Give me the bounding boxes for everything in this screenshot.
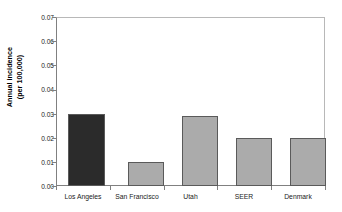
bar-los-angeles — [68, 114, 105, 186]
bars-layer — [56, 17, 325, 186]
x-tick-mark-4 — [271, 186, 272, 190]
x-tick-label-denmark: Denmark — [271, 192, 325, 201]
bar-utah — [182, 116, 218, 186]
x-tick-label-seer: SEER — [217, 192, 271, 201]
x-tick-mark-2 — [164, 186, 165, 190]
y-tick-label-0.05: 0.05 — [20, 62, 54, 69]
bar-denmark — [290, 138, 326, 186]
y-tick-label-0.03: 0.03 — [20, 111, 54, 118]
y-tick-label-0.06: 0.06 — [20, 38, 54, 45]
x-tick-mark-1 — [110, 186, 111, 190]
bar-chart-figure: Annual incidence (per 100,000) 0.07 0.06… — [0, 0, 342, 212]
x-tick-mark-5 — [325, 186, 326, 190]
x-tick-label-los-angeles: Los Angeles — [56, 192, 110, 201]
y-tick-label-0.01: 0.01 — [20, 159, 54, 166]
y-axis-title-line-1: Annual incidence — [5, 29, 15, 125]
y-tick-label-0.07: 0.07 — [20, 14, 54, 21]
y-tick-label-0.02: 0.02 — [20, 135, 54, 142]
x-tick-mark-3 — [217, 186, 218, 190]
x-tick-label-san-francisco: San Francisco — [110, 192, 164, 201]
y-tick-label-0.00: 0.00 — [20, 183, 54, 190]
bar-san-francisco — [128, 162, 164, 186]
bar-seer — [236, 138, 272, 186]
y-tick-label-0.04: 0.04 — [20, 86, 54, 93]
x-tick-mark-0 — [56, 186, 57, 190]
x-tick-label-utah: Utah — [164, 192, 217, 201]
